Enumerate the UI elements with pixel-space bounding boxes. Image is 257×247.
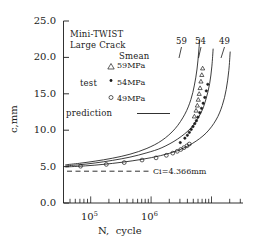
x-axis-title-main: N, (98, 225, 109, 236)
data-point (188, 131, 190, 133)
y-axis-title: c,mm (8, 105, 19, 133)
data-point (140, 158, 144, 162)
crack-growth-chart: 25.0 20.0 15.0 10.0 5.0 0.0 c,mm 105 106… (0, 0, 257, 247)
y-tick-label-5: 5.0 (12, 161, 56, 172)
data-point (205, 90, 207, 92)
curve-end-label-49: 49 (219, 36, 230, 46)
data-point (200, 73, 204, 77)
data-point (201, 66, 205, 70)
ci-reference-label: Ci=4.366mm (153, 167, 206, 176)
legend-triangle-up-open-icon (108, 64, 114, 70)
data-point (199, 79, 203, 83)
leader-49 (221, 47, 225, 58)
data-markers-49 (79, 142, 192, 168)
data-point (197, 92, 201, 96)
y-tick-label-25: 25.0 (12, 15, 56, 26)
x-tick-exponent: 5 (94, 210, 98, 218)
legend-test-label: test (80, 78, 97, 88)
legend-prediction-label: prediction (66, 108, 112, 118)
x-tick-base: 10 (141, 211, 154, 222)
x-axis-title: N, cycle (98, 225, 142, 236)
legend-markers (108, 64, 114, 100)
data-point (194, 123, 196, 125)
curve-end-label-54: 54 (195, 36, 206, 46)
data-point (199, 112, 201, 114)
y-tick-label-15: 15.0 (12, 88, 56, 99)
data-point (194, 108, 198, 112)
legend-label-54mpa: 54MPa (117, 78, 145, 87)
legend-dot-filled-icon (110, 79, 112, 81)
data-point (192, 125, 194, 127)
leader-59 (179, 47, 182, 58)
data-point (192, 114, 196, 118)
data-point (184, 137, 186, 139)
x-axis-ticks (70, 196, 240, 203)
legend-label-49mpa: 49MPa (117, 94, 145, 103)
legend-circle-open-icon (109, 96, 113, 100)
data-point (198, 86, 202, 90)
x-tick-exponent: 6 (154, 210, 158, 218)
data-point (122, 161, 126, 165)
data-point (202, 102, 204, 104)
curve-end-label-59: 59 (176, 36, 187, 46)
x-tick-label-1e6: 106 (141, 210, 158, 222)
y-tick-label-20: 20.0 (12, 51, 56, 62)
curve-label-leaders (179, 47, 225, 58)
data-point (186, 134, 188, 136)
legend-label-59mpa: 59MPa (117, 61, 145, 70)
x-axis-title-unit: cycle (116, 225, 142, 236)
legend-group-header: Smean (119, 51, 149, 61)
data-point (204, 96, 206, 98)
data-point (196, 98, 200, 102)
data-point (179, 141, 181, 143)
x-tick-base: 10 (81, 211, 94, 222)
y-tick-label-0: 0.0 (12, 197, 56, 208)
data-markers-59 (192, 66, 204, 118)
data-point (200, 107, 202, 109)
x-tick-label-1e5: 105 (81, 210, 98, 222)
data-point (195, 120, 197, 122)
annotation-crack-type: Large Crack (70, 40, 126, 50)
data-point (190, 128, 192, 130)
annotation-spectrum: Mini-TWIST (70, 29, 123, 39)
data-point (195, 103, 199, 107)
data-point (197, 116, 199, 118)
data-point (207, 83, 209, 85)
